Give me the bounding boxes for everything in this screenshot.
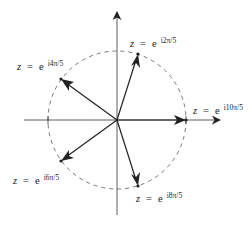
vector-2pi-5 [117,52,140,120]
unit-circle-diagram: z = e i2π/5 z = e i4π/5 z = e i10π/5 z =… [0,0,252,226]
label-2pi-5: z = e i2π/5 [129,33,176,50]
vector-6pi-5 [59,120,117,163]
label-6pi-5: z = e i6π/5 [12,170,59,187]
label-8pi-5: z = e i8π/5 [135,188,182,205]
label-4pi-5: z = e i4π/5 [16,56,63,73]
vector-4pi-5 [59,77,117,120]
point-dot [59,159,62,162]
vector-8pi-5 [117,120,140,188]
point-dot [136,52,139,55]
label-10pi-5: z = e i10π/5 [192,100,243,117]
arrowhead-icon [131,172,140,186]
vector-10pi-5 [117,115,188,125]
arrowhead-icon [61,79,74,91]
point-dot [59,77,62,80]
arrowhead-icon [131,54,140,68]
point-dot [184,118,187,121]
arrowhead-icon [61,150,74,161]
